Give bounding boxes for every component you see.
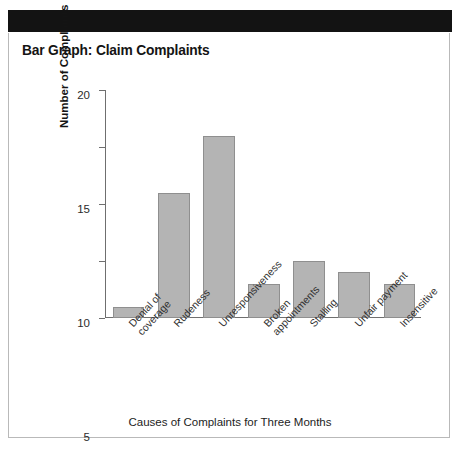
y-tick-label: 20 (77, 89, 90, 101)
header-band (8, 10, 452, 32)
y-tick-mark: 20 (99, 90, 105, 91)
y-tick-mark: 0 (99, 318, 105, 319)
plot-area: 05101520 (105, 85, 453, 323)
bar-chart-page: Bar Graph: Claim Complaints Number of Co… (0, 0, 461, 450)
x-axis-title: Causes of Complaints for Three Months (9, 416, 451, 428)
page-title: Bar Graph: Claim Complaints (22, 41, 210, 58)
y-tick-mark: 15 (99, 147, 105, 148)
y-axis-title: Number of Complaints (58, 5, 70, 128)
y-tick-mark: 10 (99, 204, 105, 205)
y-tick-label: 10 (77, 317, 90, 329)
y-tick-label: 5 (84, 431, 90, 443)
y-tick-label: 15 (77, 203, 90, 215)
figure-card: Bar Graph: Claim Complaints Number of Co… (8, 33, 450, 438)
y-tick-mark: 5 (99, 261, 105, 262)
x-axis-category-labels: Denial of coverageRudenessUnresponsivene… (105, 321, 453, 411)
